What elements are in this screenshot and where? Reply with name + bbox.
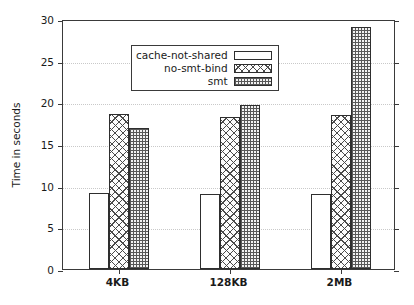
legend-swatch-empty	[234, 51, 272, 60]
y-tick-mark-right	[394, 271, 399, 272]
x-tick-mark	[119, 269, 120, 274]
legend-swatch-crosshatch	[234, 64, 272, 73]
y-tick-label: 30	[28, 14, 54, 26]
x-tick-mark	[341, 269, 342, 274]
legend-item-cache-not-shared: cache-not-shared	[136, 49, 272, 61]
y-tick-mark-right	[394, 146, 399, 147]
bar-cache-not-shared-4KB	[89, 193, 109, 269]
y-tick-label: 0	[28, 264, 54, 276]
legend-item-smt: smt	[136, 75, 272, 87]
y-tick-label: 20	[28, 97, 54, 109]
plot-area: cache-not-sharedno-smt-bindsmt	[62, 20, 395, 270]
y-tick-label: 25	[28, 56, 54, 68]
legend-label: cache-not-shared	[136, 49, 228, 61]
y-tick-mark	[58, 63, 63, 64]
bar-no-smt-bind-128KB	[220, 117, 240, 270]
x-tick-label-2MB: 2MB	[327, 276, 353, 288]
y-tick-label: 15	[28, 139, 54, 151]
y-tick-mark	[58, 146, 63, 147]
legend-label: smt	[208, 75, 228, 87]
y-tick-mark	[58, 21, 63, 22]
y-tick-mark-right	[394, 104, 399, 105]
grid-line	[63, 104, 394, 105]
y-tick-mark	[58, 271, 63, 272]
legend-swatch-checker	[234, 77, 272, 86]
x-tick-mark	[230, 269, 231, 274]
y-tick-mark	[58, 229, 63, 230]
y-axis-label: Time in seconds	[10, 103, 22, 188]
bar-chart: Time in seconds 051015202530 cache-not-s…	[0, 0, 414, 305]
y-tick-mark-right	[394, 63, 399, 64]
legend-label: no-smt-bind	[164, 62, 228, 74]
legend: cache-not-sharedno-smt-bindsmt	[131, 45, 279, 91]
bar-smt-128KB	[240, 105, 260, 269]
bar-cache-not-shared-128KB	[200, 194, 220, 269]
bar-smt-4KB	[129, 128, 149, 269]
x-tick-label-128KB: 128KB	[209, 276, 247, 288]
y-tick-label: 10	[28, 181, 54, 193]
bar-cache-not-shared-2MB	[311, 194, 331, 269]
y-tick-mark-right	[394, 188, 399, 189]
y-tick-label: 5	[28, 222, 54, 234]
legend-item-no-smt-bind: no-smt-bind	[136, 62, 272, 74]
y-tick-mark	[58, 104, 63, 105]
x-tick-label-4KB: 4KB	[106, 276, 129, 288]
bar-no-smt-bind-4KB	[109, 114, 129, 269]
y-tick-mark	[58, 188, 63, 189]
bar-no-smt-bind-2MB	[331, 115, 351, 269]
y-tick-mark-right	[394, 21, 399, 22]
bar-smt-2MB	[351, 27, 371, 269]
y-tick-mark-right	[394, 229, 399, 230]
